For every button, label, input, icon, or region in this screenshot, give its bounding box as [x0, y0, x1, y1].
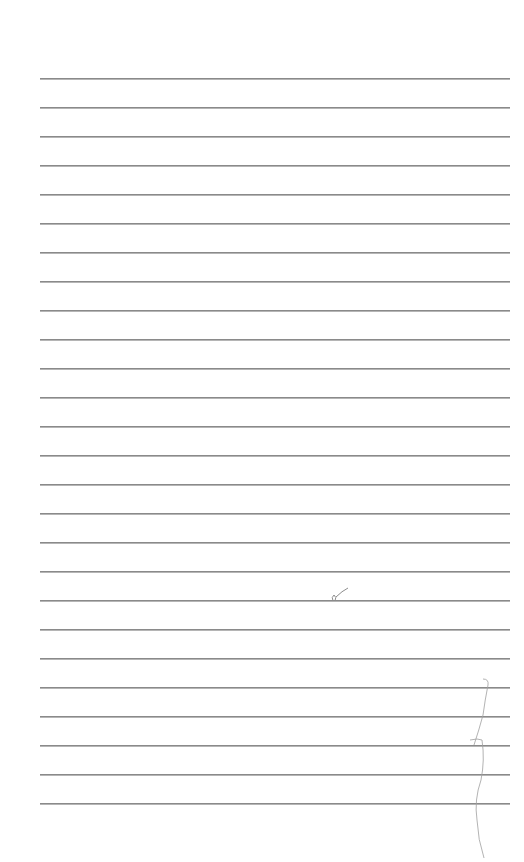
ruled-line	[40, 78, 510, 80]
pencil-marks	[0, 0, 524, 862]
ruled-line	[40, 165, 510, 167]
ruled-line	[40, 252, 510, 254]
ruled-line	[40, 455, 510, 457]
ruled-line	[40, 774, 510, 776]
lined-paper-page	[0, 0, 524, 862]
ruled-line	[40, 310, 510, 312]
ruled-line	[40, 658, 510, 660]
ruled-line	[40, 107, 510, 109]
ruled-line	[40, 571, 510, 573]
stray-pencil-stroke	[470, 679, 488, 858]
ruled-line	[40, 484, 510, 486]
ruled-line	[40, 223, 510, 225]
ruled-line	[40, 426, 510, 428]
ruled-line	[40, 368, 510, 370]
ruled-line	[40, 513, 510, 515]
ruled-line	[40, 194, 510, 196]
ruled-line	[40, 136, 510, 138]
ruled-line	[40, 803, 510, 805]
ruled-line	[40, 629, 510, 631]
ruled-line	[40, 397, 510, 399]
ruled-line	[40, 745, 510, 747]
ruled-line	[40, 687, 510, 689]
ruled-line	[40, 281, 510, 283]
ruled-line	[40, 600, 510, 602]
ruled-line	[40, 542, 510, 544]
ruled-line	[40, 716, 510, 718]
ruled-line	[40, 339, 510, 341]
